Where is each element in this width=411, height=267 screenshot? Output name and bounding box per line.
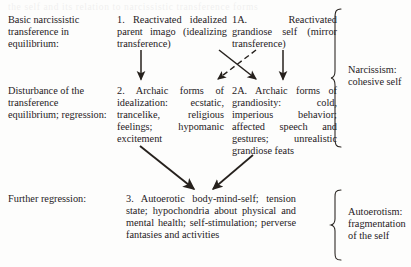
row-label-further-regression: Further regression: (8, 193, 108, 205)
row-label-disturbance-of-transference-equilibrium: Disturbance of the transference equilibr… (8, 85, 108, 121)
arrow-2-to-3 (140, 146, 194, 189)
brace-autoerotism (330, 189, 344, 261)
node-2a-archaic-forms-of-grandiosity: 2A. Archaic forms of grandiosity: cold, … (232, 85, 337, 158)
brace-label-narcissism: Narcissism: cohesive self (348, 64, 410, 88)
arrow-2a-to-3 (213, 155, 253, 189)
figure-canvas: the self and its relation to narcissisti… (0, 0, 411, 267)
node-3-autoerotic-body-mind-self: 3. Autoerotic body-mind-self; tension st… (126, 193, 296, 241)
brace-narcissism (330, 8, 344, 148)
brace-label-autoerotism: Autoerotism: fragmentation of the self (348, 206, 410, 242)
node-2-archaic-forms-of-idealization: 2. Archaic forms of idealization: ecstat… (117, 85, 224, 145)
